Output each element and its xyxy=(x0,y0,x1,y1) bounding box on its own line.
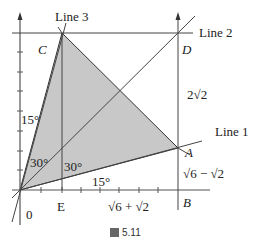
label-line-2: Line 2 xyxy=(199,26,233,39)
label-point-C: C xyxy=(38,43,47,56)
label-angle-15-left: 15° xyxy=(21,113,39,126)
label-point-E: E xyxy=(57,200,65,213)
geometry-figure: Line 3 Line 2 Line 1 C D A B E 0 15° 30°… xyxy=(0,0,260,246)
figure-caption: 5.11 xyxy=(110,227,141,238)
label-origin: 0 xyxy=(26,208,33,221)
label-segment-AB: √6 − √2 xyxy=(183,167,224,180)
line-3-pointer xyxy=(58,27,62,33)
caption-number: 5.11 xyxy=(122,227,141,238)
label-point-D: D xyxy=(182,43,191,56)
label-point-B: B xyxy=(183,196,191,209)
label-segment-DA: 2√2 xyxy=(187,88,207,101)
y-axis-arrow-icon xyxy=(18,12,23,20)
label-line-1: Line 1 xyxy=(215,125,249,138)
label-segment-EB: √6 + √2 xyxy=(108,200,149,213)
label-point-A: A xyxy=(185,146,193,159)
label-line-3: Line 3 xyxy=(55,10,89,23)
label-angle-30-right: 30° xyxy=(64,160,82,173)
label-angle-30-left: 30° xyxy=(30,156,48,169)
label-angle-15-bottom: 15° xyxy=(92,175,110,188)
figure-glyph-icon xyxy=(110,228,119,237)
vertical-arrow-icon xyxy=(176,12,181,20)
